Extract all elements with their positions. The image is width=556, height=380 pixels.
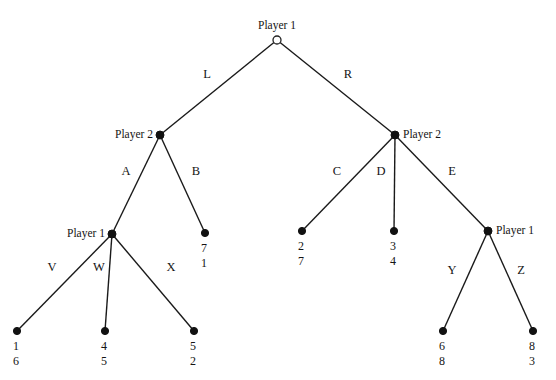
- payoff-player1: 7: [201, 241, 207, 256]
- action-label-r: R: [338, 68, 358, 81]
- decision-node-p2right: [391, 131, 399, 139]
- terminal-node-t_Y: [439, 327, 446, 334]
- action-label-b: B: [186, 165, 206, 178]
- payoff-pair-t_B: 71: [201, 241, 207, 271]
- payoff-player1: 1: [13, 339, 19, 354]
- terminal-node-t_X: [190, 327, 197, 334]
- game-tree-diagram: Player 1Player 2Player 2Player 1Player 1…: [0, 0, 556, 380]
- action-label-a: A: [116, 165, 136, 178]
- tree-edge-b: [160, 135, 205, 233]
- payoff-player2: 3: [529, 354, 535, 369]
- terminal-node-t_D: [390, 227, 397, 234]
- payoff-player1: 4: [101, 339, 107, 354]
- action-label-y: Y: [442, 264, 462, 277]
- nodes-group: [13, 36, 536, 335]
- action-label-c: C: [327, 165, 347, 178]
- payoff-player1: 5: [190, 339, 196, 354]
- payoff-player2: 7: [298, 254, 304, 269]
- tree-edge-z: [488, 231, 533, 331]
- tree-edge-c: [302, 135, 395, 231]
- terminal-node-t_Z: [529, 327, 536, 334]
- terminal-node-t_C: [298, 227, 305, 234]
- action-label-e: E: [442, 165, 462, 178]
- payoff-player1: 3: [390, 239, 396, 254]
- terminal-node-t_W: [101, 327, 108, 334]
- player-label-pl_p1right: Player 1: [496, 225, 534, 237]
- payoff-pair-t_Z: 83: [529, 339, 535, 369]
- payoff-pair-t_D: 34: [390, 239, 396, 269]
- tree-edge-e: [395, 135, 488, 231]
- payoff-player1: 6: [439, 339, 445, 354]
- tree-edge-a: [112, 135, 160, 234]
- payoff-pair-t_C: 27: [298, 239, 304, 269]
- action-label-z: Z: [511, 264, 531, 277]
- payoff-player2: 6: [13, 354, 19, 369]
- edges-group: [17, 40, 533, 331]
- decision-node-p1left: [108, 230, 116, 238]
- terminal-node-t_B: [201, 229, 208, 236]
- action-label-l: L: [197, 68, 217, 81]
- payoff-player1: 8: [529, 339, 535, 354]
- player-label-pl_root: Player 1: [217, 20, 337, 32]
- tree-edge-w: [105, 234, 112, 331]
- payoff-pair-t_W: 45: [101, 339, 107, 369]
- decision-node-p2left: [156, 131, 164, 139]
- tree-edge-x: [112, 234, 194, 331]
- tree-edge-y: [443, 231, 488, 331]
- tree-edge-d: [394, 135, 395, 231]
- payoff-player2: 5: [101, 354, 107, 369]
- player-label-pl_p2right: Player 2: [403, 129, 441, 141]
- payoff-pair-t_X: 52: [190, 339, 196, 369]
- tree-edge-l: [160, 40, 277, 135]
- payoff-player1: 2: [298, 239, 304, 254]
- tree-graphics: [0, 0, 556, 380]
- payoff-pair-t_V: 16: [13, 339, 19, 369]
- payoff-pair-t_Y: 68: [439, 339, 445, 369]
- player-label-pl_p1left: Player 1: [0, 228, 105, 240]
- action-label-x: X: [161, 261, 181, 274]
- payoff-player2: 1: [201, 256, 207, 271]
- action-label-d: D: [371, 165, 391, 178]
- decision-node-root: [273, 36, 281, 44]
- player-label-pl_p2left: Player 2: [0, 129, 153, 141]
- tree-edge-r: [277, 40, 395, 135]
- tree-edge-v: [17, 234, 112, 331]
- action-label-v: V: [42, 261, 62, 274]
- action-label-w: W: [89, 261, 109, 274]
- decision-node-p1right: [484, 227, 492, 235]
- payoff-player2: 4: [390, 254, 396, 269]
- payoff-player2: 8: [439, 354, 445, 369]
- payoff-player2: 2: [190, 354, 196, 369]
- terminal-node-t_V: [13, 327, 20, 334]
